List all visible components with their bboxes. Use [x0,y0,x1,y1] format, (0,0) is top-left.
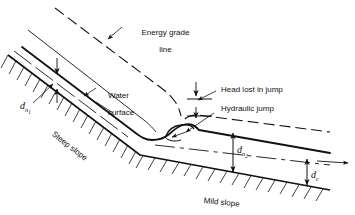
hydraulic-jump-diagram: Energy grade line Water surface Head los… [0,0,355,215]
energy-grade-line-label-line2: line [159,45,171,54]
dn2-label: dn2 [237,144,248,156]
hydraulic-jump-label: Hydraulic jump [221,104,274,113]
water-surface-label-line1: Water [108,91,129,100]
energy-grade-line-label: Energy grade line [130,20,192,64]
dn1-label: dn1 [20,100,31,112]
head-lost-in-jump-label: Head lost in jump [221,85,283,94]
dn2-subsubscript: 2 [245,153,248,159]
mild-slope-label: Mild slope [203,196,240,209]
energy-grade-line-path [55,8,330,132]
dc-subscript: c [316,175,319,182]
channel-bed [8,55,330,190]
energy-grade-line-label-line1: Energy grade [141,28,189,37]
dc-label: dc [311,169,319,180]
flow-direction-arrow [317,161,348,163]
water-surface-label: Water surface [99,83,141,127]
leader-energy-grade-line [108,27,122,39]
dimension-head-lost [187,82,212,118]
water-surface-label-line2: surface [108,108,134,117]
mild-slope-label-wrap: Mild slope [203,189,241,211]
dn1-subsubscript: 1 [28,109,31,115]
